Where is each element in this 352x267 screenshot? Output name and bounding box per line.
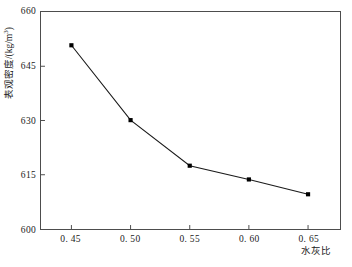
- x-axis-title: 水灰比: [292, 246, 340, 257]
- y-axis-tick-label: 615: [2, 170, 36, 180]
- y-axis-ticks: [41, 66, 45, 175]
- x-axis-tick-label: 0. 45: [47, 234, 95, 245]
- chart-figure: 600615630645660 表观密度/(kg/m3) 0. 450. 500…: [0, 0, 352, 267]
- data-point-marker: [306, 192, 310, 196]
- data-series-line: [71, 45, 308, 194]
- y-axis-title: 表观密度/(kg/m3): [1, 3, 15, 123]
- plot-area: [40, 11, 341, 230]
- x-axis-tick-label: 0. 65: [285, 234, 333, 245]
- x-axis-tick-label: 0. 50: [106, 234, 154, 245]
- data-point-marker: [69, 43, 73, 47]
- y-axis-title-prefix: 表观密度/(kg/m: [4, 34, 14, 99]
- data-point-markers: [69, 43, 310, 196]
- x-axis-tick-label: 0. 55: [166, 234, 214, 245]
- line-chart-svg: [41, 12, 340, 229]
- data-point-marker: [128, 118, 132, 122]
- data-point-marker: [247, 177, 251, 181]
- x-axis-tick-label: 0. 60: [225, 234, 273, 245]
- y-axis-tick-label: 600: [2, 225, 36, 235]
- x-axis-ticks: [71, 225, 308, 229]
- y-axis-title-exponent: 3: [2, 30, 10, 34]
- data-point-marker: [188, 164, 192, 168]
- y-axis-title-suffix: ): [4, 27, 14, 30]
